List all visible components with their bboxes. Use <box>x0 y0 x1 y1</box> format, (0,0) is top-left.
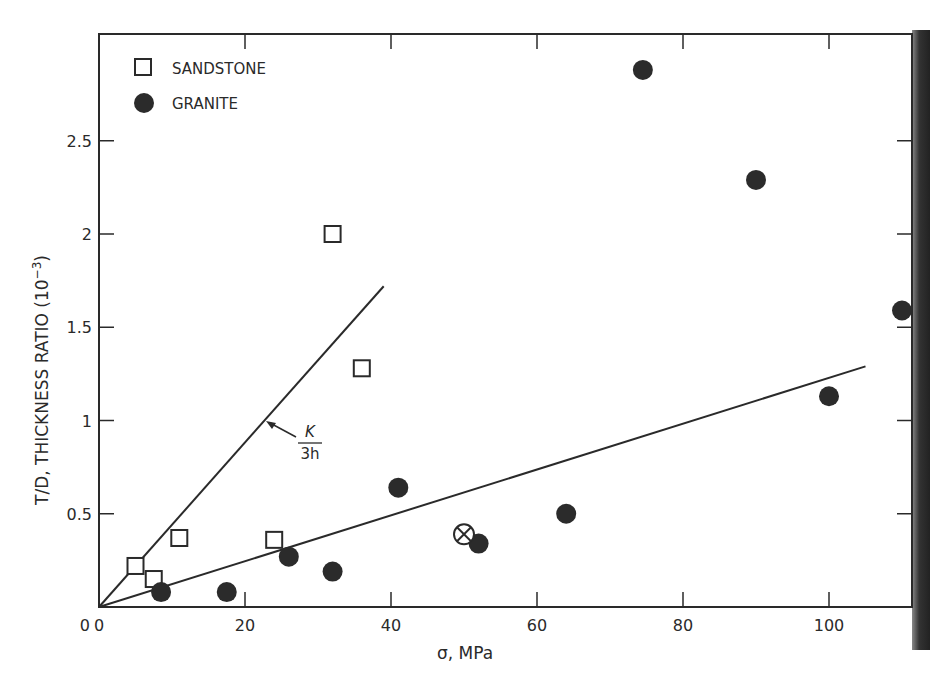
y-axis-label-close: ) <box>32 255 52 262</box>
legend-circle-icon <box>134 93 154 113</box>
granite-point <box>633 60 653 80</box>
legend: SANDSTONE GRANITE <box>134 59 266 113</box>
granite-point <box>556 504 576 524</box>
legend-sandstone-label: SANDSTONE <box>172 60 266 78</box>
circled-x-point <box>454 524 474 544</box>
x-axis-label: σ, MPa <box>437 643 493 663</box>
granite-point <box>217 582 237 602</box>
y-tick-label: 1.5 <box>67 318 92 337</box>
granite-point <box>819 386 839 406</box>
granite-point <box>388 478 408 498</box>
x-tick-label: 60 <box>527 616 547 635</box>
granite-point <box>892 300 912 320</box>
sandstone-point <box>171 530 187 546</box>
legend-granite-label: GRANITE <box>172 95 238 113</box>
y-tick-label: 1 <box>82 412 92 431</box>
annotation-k-over-3h: K 3h <box>266 421 322 463</box>
arrowhead-icon <box>266 421 276 429</box>
granite-point <box>151 582 171 602</box>
axis-ticks <box>99 34 912 607</box>
granite-point <box>279 547 299 567</box>
y-axis-label-exponent: −3 <box>30 262 44 280</box>
granite-point <box>323 562 343 582</box>
x-tick-label: 80 <box>673 616 693 635</box>
sandstone-point <box>354 360 370 376</box>
y-tick-label: 0 <box>80 616 90 635</box>
scatter-chart: 02040608010000.511.522.5 SANDSTONE GRANI… <box>0 0 930 689</box>
annotation-denominator: 3h <box>300 445 319 463</box>
sandstone-point <box>266 532 282 548</box>
sandstone-point <box>325 226 341 242</box>
legend-square-icon <box>135 59 151 75</box>
y-tick-label: 2 <box>82 225 92 244</box>
y-axis-label-main: T/D, THICKNESS RATIO (10 <box>32 279 52 506</box>
y-tick-label: 0.5 <box>67 505 92 524</box>
y-tick-label: 2.5 <box>67 132 92 151</box>
y-axis-label: T/D, THICKNESS RATIO (10−3) <box>30 255 52 506</box>
plot-frame <box>99 34 912 607</box>
annotation-numerator: K <box>305 423 316 441</box>
x-tick-label: 40 <box>381 616 401 635</box>
x-tick-label: 100 <box>814 616 845 635</box>
x-tick-label: 0 <box>94 616 104 635</box>
plot-border <box>99 34 912 607</box>
x-tick-label: 20 <box>235 616 255 635</box>
tick-labels: 02040608010000.511.522.5 <box>67 132 845 635</box>
data-points <box>128 60 913 602</box>
sandstone-point <box>128 558 144 574</box>
fit-lines <box>99 286 866 607</box>
fit-line-granite-fit <box>99 366 866 607</box>
granite-point <box>746 170 766 190</box>
